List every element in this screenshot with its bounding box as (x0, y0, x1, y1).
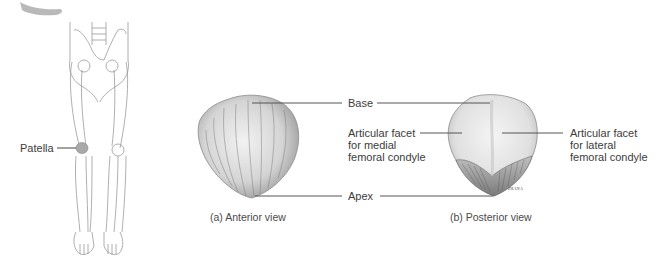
anterior-view-caption: (a) Anterior view (210, 211, 286, 223)
posterior-patella-illustration: DIANA (448, 95, 537, 196)
artist-signature: DIANA (507, 186, 524, 191)
skeleton-patella-highlight (76, 143, 88, 154)
skeleton-lower-limbs-icon (69, 22, 128, 255)
medial-facet-label: Articular facet for medial femoral condy… (348, 127, 426, 163)
base-label: Base (348, 97, 373, 109)
pelvis-fragment-icon (20, 2, 62, 15)
anterior-patella-illustration (198, 95, 299, 198)
lateral-facet-label: Articular facet for lateral femoral cond… (570, 127, 648, 163)
diagram-graphics: DIANA (0, 0, 662, 262)
posterior-view-caption: (b) Posterior view (450, 211, 532, 223)
apex-label: Apex (348, 190, 373, 202)
patella-label: Patella (20, 142, 54, 154)
